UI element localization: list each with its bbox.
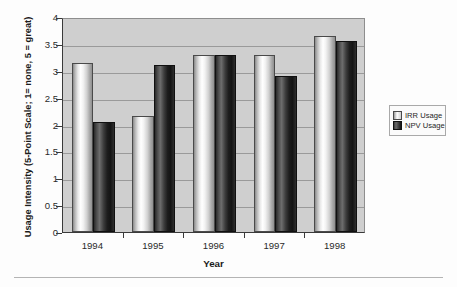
bar-npv-usage-1995 [154,65,176,232]
x-axis-tick-mark [304,233,305,238]
y-axis-tick-mark [56,206,62,207]
bar-npv-usage-1996 [215,55,237,232]
y-axis-tick-label: 3.5 [18,39,58,50]
x-axis-tick-mark [244,233,245,238]
x-axis-tick-label: 1998 [305,240,365,251]
bar-npv-usage-1997 [275,76,297,232]
y-axis-tick-mark [56,72,62,73]
y-axis-tick-label: 4 [18,12,58,23]
bar-irr-usage-1995 [132,116,154,232]
y-axis-tick-label: 0.5 [18,200,58,211]
y-axis-tick-mark [56,152,62,153]
y-axis-tick-label: 1 [18,173,58,184]
y-axis-tick-label: 3 [18,66,58,77]
bar-irr-usage-1998 [314,36,336,232]
bar-irr-usage-1994 [72,63,94,232]
y-axis-tick-label: 2 [18,120,58,131]
y-axis-tick-label: 0 [18,227,58,238]
y-axis-tick-mark [56,45,62,46]
legend-item-label: IRR Usage [405,111,442,120]
x-axis-title: Year [62,258,365,269]
light-swatch-icon [393,111,402,120]
y-axis-tick-label: 2.5 [18,93,58,104]
x-axis-tick-mark [183,233,184,238]
legend-item[interactable]: NPV Usage [393,121,442,130]
x-axis-tick-label: 1994 [62,240,122,251]
y-axis-tick-mark [56,126,62,127]
legend-item-label: NPV Usage [405,121,445,130]
x-axis-tick-mark [123,233,124,238]
plot-area [62,18,365,233]
y-axis-tick-mark [56,233,62,234]
x-axis-tick-label: 1996 [184,240,244,251]
bar-group [63,19,364,232]
dark-swatch-icon [393,121,402,130]
bar-irr-usage-1996 [193,55,215,232]
x-axis-tick-label: 1997 [244,240,304,251]
bar-npv-usage-1994 [93,122,115,232]
x-axis-tick-label: 1995 [123,240,183,251]
chart-figure: Usage Intensity (5-Point Scale; 1= none,… [0,0,457,287]
y-axis-tick-label: 1.5 [18,146,58,157]
y-axis-tick-mark [56,179,62,180]
chart-legend: IRR Usage NPV Usage [389,105,446,136]
bar-irr-usage-1997 [254,55,276,232]
bottom-divider [14,277,443,278]
bar-npv-usage-1998 [336,41,358,232]
y-axis-tick-mark [56,18,62,19]
y-axis-tick-mark [56,99,62,100]
legend-item[interactable]: IRR Usage [393,111,442,120]
